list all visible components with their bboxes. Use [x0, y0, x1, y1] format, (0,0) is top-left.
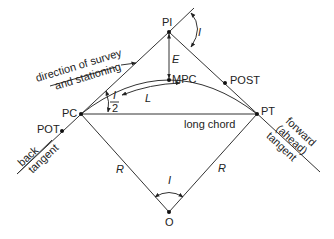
tangent-extension-line	[169, 8, 194, 32]
point-pot	[60, 129, 64, 133]
forward-tangent-label: forward (ahead) tangent	[264, 112, 318, 166]
label-mpc: MPC	[172, 73, 197, 85]
label-pi: PI	[162, 16, 172, 28]
symbol-r-right: R	[218, 162, 226, 174]
symbol-i-top: I	[198, 26, 201, 38]
point-pt	[255, 112, 259, 116]
label-pot: POT	[37, 123, 60, 135]
deflection-angle-arc	[191, 13, 198, 47]
point-pc	[79, 112, 83, 116]
label-post: POST	[230, 74, 260, 86]
symbol-i-center: I	[168, 174, 171, 186]
label-o: O	[165, 216, 174, 228]
half-deflection-angle-arc	[106, 91, 109, 112]
symbol-half-i-denominator: 2	[112, 102, 118, 114]
symbol-l: L	[145, 92, 151, 104]
point-pi	[167, 30, 171, 34]
symbol-e: E	[172, 53, 180, 65]
central-angle-arc	[155, 193, 183, 198]
label-long-chord: long chord	[184, 118, 235, 130]
point-o	[167, 210, 171, 214]
curve-diagram: PI PC PT O MPC POT POST E L R R I I I 2 …	[0, 0, 334, 239]
radius-left-line	[81, 114, 169, 212]
symbol-half-i-numerator: I	[113, 89, 116, 101]
point-post	[223, 81, 227, 85]
label-pt: PT	[261, 105, 275, 117]
symbol-r-left: R	[116, 163, 124, 175]
point-mpc	[167, 78, 171, 82]
label-pc: PC	[62, 107, 77, 119]
